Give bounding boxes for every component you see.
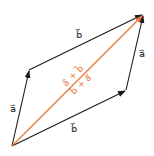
vector-b-top	[29, 15, 142, 70]
label-left-a: a⃗	[10, 103, 16, 114]
parallelogram-diagram: b⃗ a⃗ a⃗ b⃗ a⃗ + b⃗ b⃗ + a⃗	[0, 0, 154, 156]
label-right-a: a⃗	[139, 48, 145, 59]
vector-b-bottom	[12, 91, 125, 146]
label-top-b: b⃗	[75, 28, 82, 40]
label-bottom-b: b⃗	[70, 122, 77, 134]
